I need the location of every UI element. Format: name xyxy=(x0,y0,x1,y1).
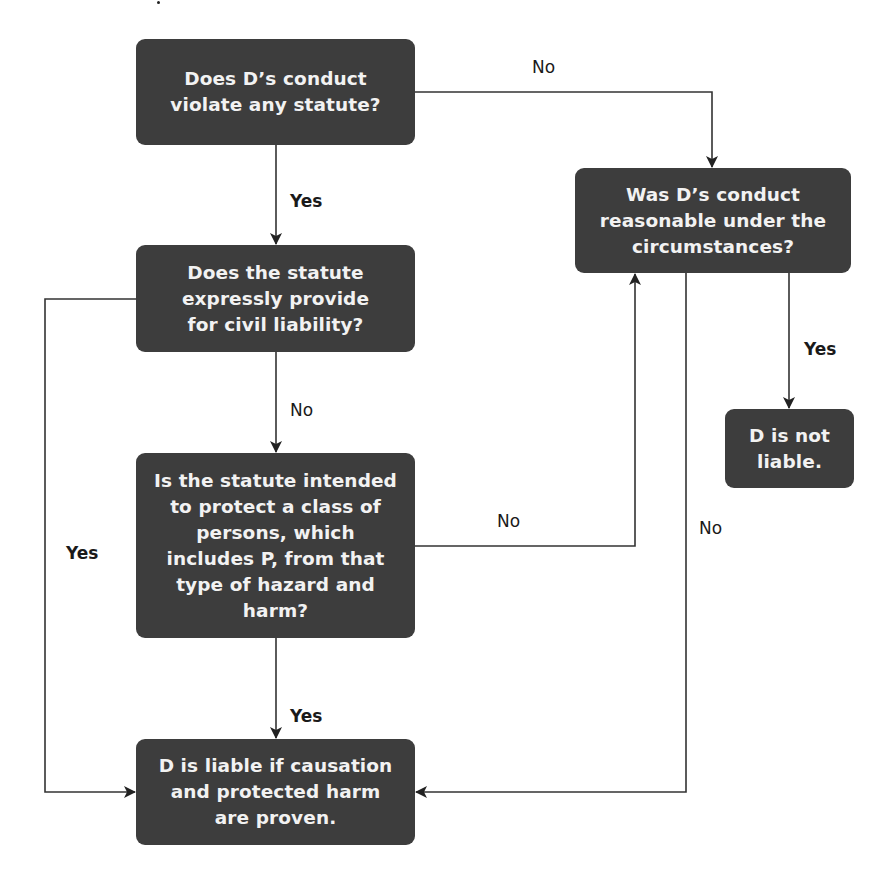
label-statute-no: No xyxy=(532,57,555,77)
edge-reasonable-no xyxy=(416,273,686,792)
flowchart-canvas: Does D’s conduct violate any statute? Do… xyxy=(0,0,885,888)
node-protected-class-text: Is the statute intended to protect a cla… xyxy=(154,468,397,624)
label-reasonable-yes: Yes xyxy=(804,339,836,359)
node-liable-result: D is liable if causation and protected h… xyxy=(136,739,415,845)
label-reasonable-no: No xyxy=(699,518,722,538)
node-reasonable-text: Was D’s conduct reasonable under the cir… xyxy=(600,182,826,260)
node-reasonable: Was D’s conduct reasonable under the cir… xyxy=(575,168,851,273)
node-liable-result-text: D is liable if causation and protected h… xyxy=(159,753,393,831)
edge-class-no xyxy=(415,274,635,546)
node-protected-class: Is the statute intended to protect a cla… xyxy=(136,453,415,638)
node-express-liability: Does the statute expressly provide for c… xyxy=(136,245,415,352)
label-statute-yes: Yes xyxy=(290,191,322,211)
label-class-yes: Yes xyxy=(290,706,322,726)
label-express-no: No xyxy=(290,400,313,420)
node-not-liable-result: D is not liable. xyxy=(725,409,854,488)
node-express-liability-text: Does the statute expressly provide for c… xyxy=(182,260,369,338)
node-statute-violation-text: Does D’s conduct violate any statute? xyxy=(170,66,380,118)
edge-statute-no xyxy=(415,92,712,167)
label-express-yes: Yes xyxy=(66,543,98,563)
node-not-liable-result-text: D is not liable. xyxy=(749,423,830,475)
node-statute-violation: Does D’s conduct violate any statute? xyxy=(136,39,415,145)
label-class-no: No xyxy=(497,511,520,531)
